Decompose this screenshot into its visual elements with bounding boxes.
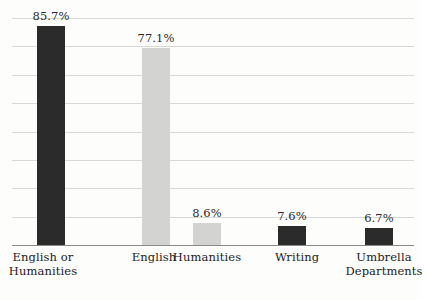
category-label-english-or-humanities: English or Humanities xyxy=(0,250,86,278)
bar-umbrella-departments xyxy=(365,228,393,245)
gridline xyxy=(12,75,414,76)
gridline xyxy=(12,160,414,161)
bar-value-label: 7.6% xyxy=(262,209,322,223)
category-label-humanities: Humanities xyxy=(169,250,245,264)
bar-value-label: 85.7% xyxy=(21,9,81,23)
bar-value-label: 6.7% xyxy=(349,211,409,225)
x-axis-line xyxy=(12,245,414,246)
bar-value-label: 8.6% xyxy=(177,206,237,220)
gridline xyxy=(12,188,414,189)
bar-english-or-humanities xyxy=(37,26,65,245)
category-label-umbrella-departments: Umbrella Departments xyxy=(339,250,427,278)
bar-value-label: 77.1% xyxy=(126,31,186,45)
gridline xyxy=(12,103,414,104)
gridline xyxy=(12,132,414,133)
bar-humanities xyxy=(193,223,221,245)
gridline xyxy=(12,46,414,47)
bar-english xyxy=(142,48,170,245)
bar-writing xyxy=(278,226,306,245)
category-label-writing: Writing xyxy=(263,250,331,264)
